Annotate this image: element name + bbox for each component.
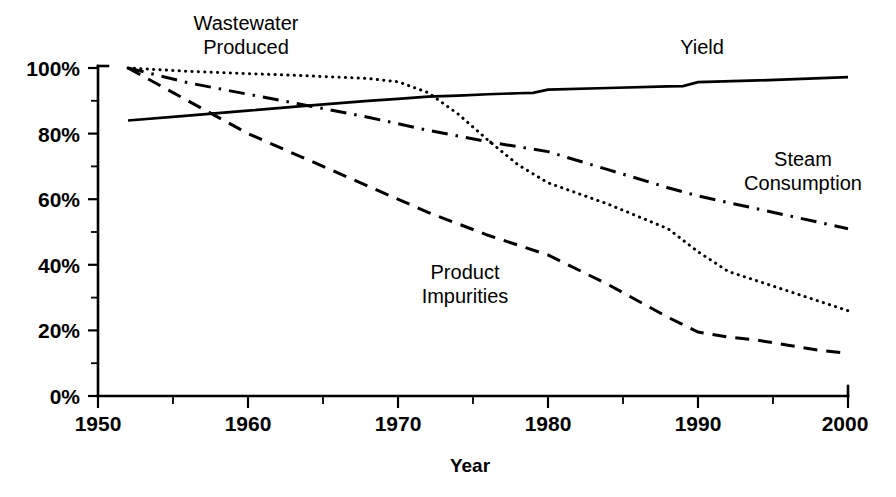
series-group — [128, 68, 848, 353]
series-label-product-line1: Product — [431, 261, 500, 283]
x-tick-label-2000: 2000 — [822, 413, 869, 434]
y-tick-label-40: 40% — [8, 254, 80, 275]
y-tick-label-20: 20% — [8, 320, 80, 341]
chart-plot-area — [0, 0, 896, 497]
series-label-wastewater-produced: Wastewater Produced — [194, 12, 299, 59]
series-label-steam-consumption: Steam Consumption — [744, 148, 862, 195]
y-tick-label-80: 80% — [8, 123, 80, 144]
series-label-yield: Yield — [680, 36, 724, 60]
series-label-wastewater-line1: Wastewater — [194, 12, 299, 34]
x-tick-label-1970: 1970 — [375, 413, 422, 434]
y-tick-label-100: 100% — [8, 58, 80, 79]
series-line-yield — [128, 77, 848, 120]
x-tick-label-1980: 1980 — [525, 413, 572, 434]
series-line-steam-consumption — [128, 68, 848, 229]
y-tick-label-60: 60% — [8, 189, 80, 210]
x-tick-label-1990: 1990 — [675, 413, 722, 434]
line-chart-figure: 100% 80% 60% 40% 20% 0% 1950 1960 1970 1… — [0, 0, 896, 497]
series-label-product-line2: Impurities — [422, 285, 509, 307]
x-axis-title: Year — [450, 455, 490, 477]
y-axis-ticks — [88, 68, 98, 396]
series-label-steam-line2: Consumption — [744, 172, 862, 194]
series-label-steam-line1: Steam — [774, 148, 832, 170]
series-label-wastewater-line2: Produced — [203, 36, 289, 58]
x-tick-label-1960: 1960 — [225, 413, 272, 434]
y-tick-label-0: 0% — [8, 386, 80, 407]
x-tick-label-1950: 1950 — [75, 413, 122, 434]
x-axis-ticks — [98, 396, 848, 408]
series-label-product-impurities: Product Impurities — [422, 261, 509, 308]
